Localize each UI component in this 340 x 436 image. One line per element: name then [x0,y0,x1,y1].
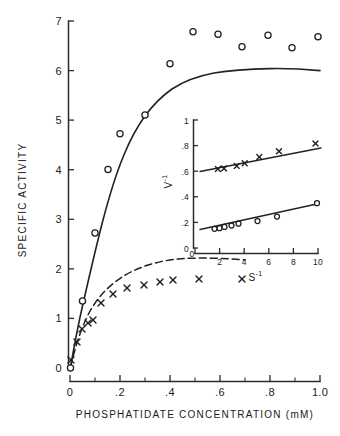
enzyme-kinetics-figure: 7 6 5 4 3 2 1 0 0 .2 .4 .6 [0,0,340,436]
y-axis-title: SPECIFIC ACTIVITY [17,143,28,258]
data-point-circle [215,31,221,37]
inset-y-tick-label-0-6: .6 [182,167,190,177]
inset-x-tick-label-2: 2 [217,257,222,267]
inset-y-tick-label-0-4: .4 [182,192,190,202]
inset-y-axis-title-text: V [163,181,174,188]
inset-x-tick-label-6: 6 [266,257,271,267]
inset-y-tick-label-0-8: .8 [182,141,190,151]
inset-data-point-circle [212,226,217,231]
y-tick-label-0: 0 [56,362,62,374]
data-point-circle [167,61,173,67]
data-point-circle [289,45,295,51]
y-tick-label-1: 1 [56,312,62,324]
x-axis-title: PHOSPHATIDATE CONCENTRATION (mM) [76,409,314,420]
data-point-circle [92,230,98,236]
inset-x-axis-title-sup: -1 [255,270,262,277]
x-tick-label-0: 0 [67,386,73,398]
y-tick-label-7: 7 [56,15,62,27]
inset-data-point-circle [236,221,241,226]
y-tick-label-3: 3 [56,213,62,225]
data-point-circle [142,112,148,118]
x-tick-label-0-2: .2 [115,386,125,398]
inset-y-tick-label-0: 0 [184,244,189,254]
x-tick-label-0-4: .4 [165,386,175,398]
data-point-circle [265,32,271,38]
figure-container: 7 6 5 4 3 2 1 0 0 .2 .4 .6 [0,0,340,436]
inset-data-point-circle [217,226,222,231]
inset-data-point-circle [255,219,260,224]
data-point-circle [117,131,123,137]
data-point-circle [190,29,196,35]
data-point-circle [315,34,321,40]
data-point-circle [105,166,111,172]
y-tick-label-2: 2 [56,263,62,275]
inset-x-tick-label-10: 10 [313,257,323,267]
inset-x-tick-label-4: 4 [242,257,247,267]
y-tick-label-4: 4 [56,164,62,176]
x-tick-label-0-8: .8 [265,386,275,398]
inset-data-point-circle [229,223,234,228]
x-tick-label-0-6: .6 [215,386,225,398]
y-tick-label-6: 6 [56,65,62,77]
inset-x-tick-label-8: 8 [291,257,296,267]
inset-y-axis-title-sup: -1 [161,174,168,181]
data-point-circle [239,44,245,50]
y-tick-label-5: 5 [56,114,62,126]
inset-data-point-circle [222,224,227,229]
data-point-circle [79,298,85,304]
inset-data-point-circle [275,214,280,219]
data-point-circle [67,365,73,371]
inset-data-point-circle [315,201,320,206]
inset-x-tick-label-0: 0 [190,249,195,259]
x-tick-label-1-0: 1.0 [312,386,328,398]
inset-x-axis-title-text: S [248,272,255,283]
inset-y-tick-label-0-2: .2 [182,218,190,228]
inset-y-tick-label-1: 1 [184,116,189,126]
